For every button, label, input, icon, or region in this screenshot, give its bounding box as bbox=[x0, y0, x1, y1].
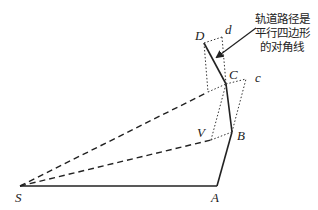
segment-B-C bbox=[226, 84, 232, 132]
dashed-rays bbox=[20, 92, 211, 186]
annotation-line-2: 平行四边形 bbox=[255, 26, 311, 40]
segment-A-B bbox=[217, 132, 232, 186]
label-V: V bbox=[197, 125, 207, 140]
label-C: C bbox=[229, 67, 238, 82]
annotation-text: 轨道路径是 平行四边形 的对角线 bbox=[255, 12, 311, 54]
ray-S-V bbox=[20, 140, 211, 186]
label-B: B bbox=[237, 128, 245, 143]
ray-S-upper bbox=[20, 92, 208, 186]
label-D: D bbox=[194, 28, 205, 43]
point-labels: S A B C D V c d bbox=[15, 22, 261, 205]
orbit-path bbox=[20, 43, 232, 186]
label-d: d bbox=[225, 22, 232, 37]
annotation-line-1: 轨道路径是 bbox=[255, 12, 311, 26]
annotation-line-3: 的对角线 bbox=[260, 40, 305, 54]
label-S: S bbox=[15, 190, 22, 205]
annotation-arrow bbox=[217, 28, 256, 57]
label-A: A bbox=[210, 190, 219, 205]
orbit-parallelogram-diagram: 轨道路径是 平行四边形 的对角线 S A B C D V c d bbox=[0, 0, 318, 210]
label-c: c bbox=[255, 70, 261, 85]
